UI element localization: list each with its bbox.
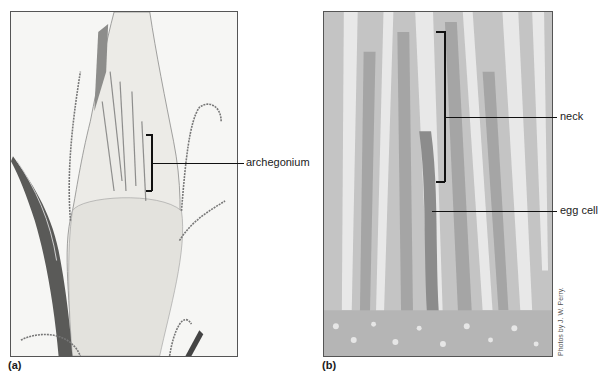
neck-bracket-bottom (436, 181, 445, 183)
micrograph-panel-a (10, 11, 238, 357)
moss-shoot-illustration (11, 12, 237, 356)
panel-label-a: (a) (8, 359, 21, 371)
egg-cell-leader-line (432, 211, 557, 212)
neck-leader-line (445, 117, 557, 118)
neck-bracket (444, 31, 446, 182)
photo-credit: Photos by J. W. Perry. (557, 287, 564, 356)
archegonium-bracket-bottom (146, 190, 152, 192)
neck-label: neck (560, 110, 583, 122)
micrograph-panel-b (323, 11, 553, 357)
archegonium-closeup-illustration (324, 12, 552, 356)
archegonium-bracket-top (146, 134, 152, 136)
archegonium-label: archegonium (246, 156, 310, 168)
egg-cell-label: egg cell (560, 204, 598, 216)
neck-bracket-top (436, 31, 445, 33)
archegonium-leader-line (152, 163, 244, 164)
panel-label-b: (b) (322, 359, 336, 371)
